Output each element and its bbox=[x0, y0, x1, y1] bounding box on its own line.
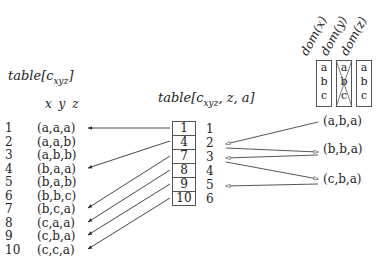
right-arrows bbox=[226, 122, 318, 186]
arrows-layer bbox=[0, 0, 390, 276]
domain-y-cross bbox=[336, 60, 352, 107]
middle-to-left-arrows bbox=[88, 128, 170, 249]
